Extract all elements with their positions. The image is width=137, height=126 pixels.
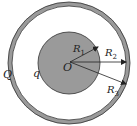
label-inner-charge: q [33,67,40,80]
label-outer-charge: Q [3,68,12,81]
label-r3: R3 [106,84,119,98]
diagram-canvas: Q q O R1 R2 R3 [0,0,137,126]
label-center: O [63,61,72,74]
label-r2: R2 [104,47,117,61]
